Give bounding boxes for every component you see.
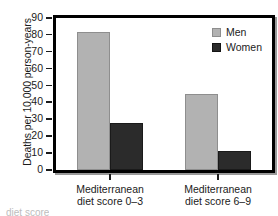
legend: Men Women [212, 27, 262, 53]
legend-label-men: Men [226, 27, 246, 38]
y-tick-mark-icon [46, 118, 52, 120]
y-tick-mark-icon [46, 17, 52, 19]
y-tick-label: 20 [31, 129, 43, 142]
x-axis-category-label-line: Mediterranean [163, 183, 273, 195]
caption-remnant: diet score [6, 208, 49, 216]
y-tick-mark-icon [46, 101, 52, 103]
y-tick-label: 70 [31, 45, 43, 58]
x-axis-category-label-line: diet score 6–9 [163, 195, 273, 207]
x-tick-mark-icon [109, 174, 111, 180]
y-tick-mark-icon [46, 68, 52, 70]
y-tick-mark-icon [46, 34, 52, 36]
bar-men-group-1 [77, 32, 110, 170]
y-tick-label: 90 [31, 11, 43, 24]
legend-swatch-women-icon [212, 43, 221, 52]
bar-women-group-1 [110, 123, 143, 170]
bar-women-group-2 [218, 151, 251, 170]
legend-label-women: Women [226, 42, 262, 53]
x-axis-category-label-line: Mediterranean [55, 183, 165, 195]
y-axis: 9080706050403020100 [0, 0, 52, 216]
y-tick-mark-icon [46, 152, 52, 154]
x-axis-category-label-line: diet score 0–3 [55, 195, 165, 207]
legend-swatch-men-icon [212, 28, 221, 37]
y-tick-label: 60 [31, 62, 43, 75]
x-axis-category-label-2: Mediterraneandiet score 6–9 [163, 183, 273, 207]
y-tick-label: 50 [31, 79, 43, 92]
y-tick-mark-icon [46, 85, 52, 87]
bar-chart-figure: Deaths per 10,000 person-years 908070605… [0, 0, 278, 216]
y-tick-label: 30 [31, 112, 43, 125]
y-tick-label: 40 [31, 95, 43, 108]
plot-frame: Men Women [53, 15, 275, 173]
y-tick-mark-icon [46, 135, 52, 137]
y-tick-label: 80 [31, 28, 43, 41]
x-tick-mark-icon [217, 174, 219, 180]
y-tick-label: 0 [37, 163, 43, 176]
x-axis-category-label-1: Mediterraneandiet score 0–3 [55, 183, 165, 207]
legend-item-men: Men [212, 27, 262, 38]
y-tick-mark-icon [46, 169, 52, 171]
y-tick-mark-icon [46, 51, 52, 53]
legend-item-women: Women [212, 42, 262, 53]
bar-men-group-2 [185, 94, 218, 170]
y-tick-label: 10 [31, 146, 43, 159]
